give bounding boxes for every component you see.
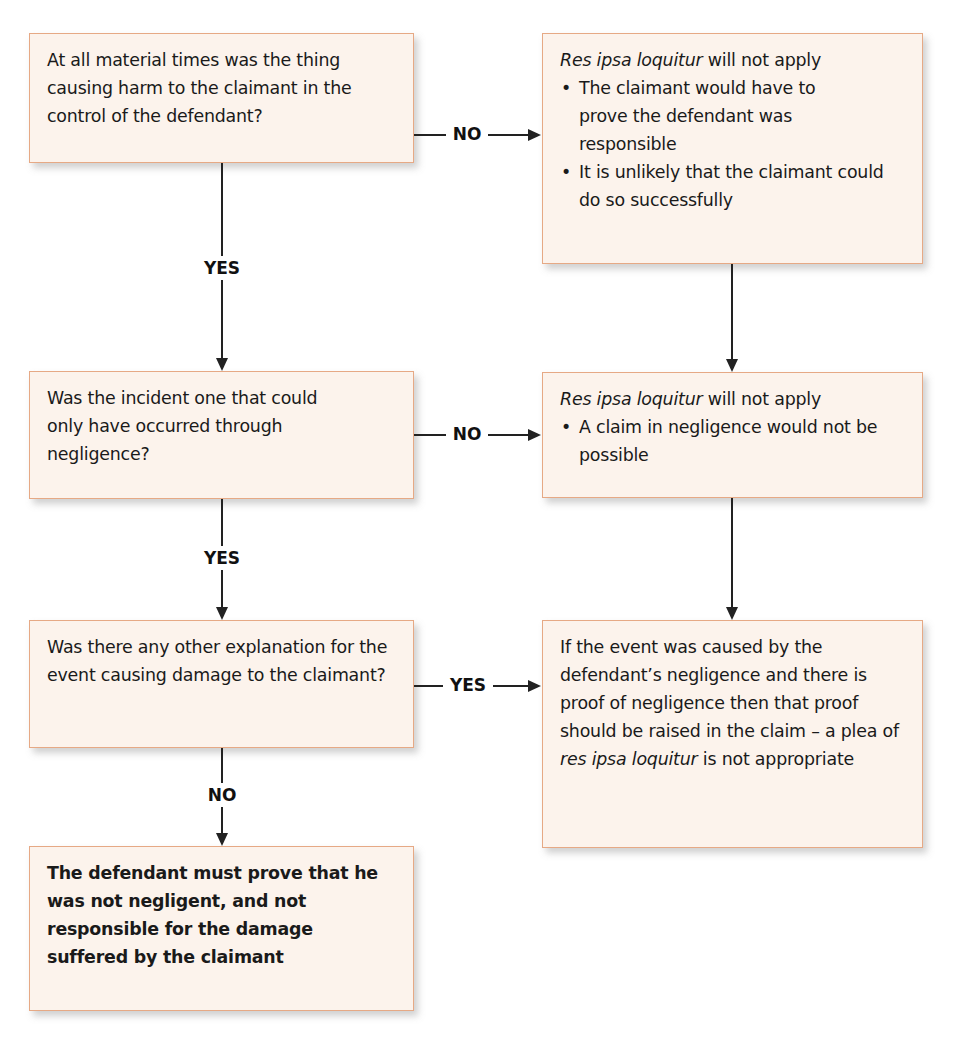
outcome-box-not-apply-prove: Res ipsa loquitur will not apply The cla…	[542, 33, 923, 264]
outcome-text-before: If the event was caused by the defendant…	[560, 637, 899, 741]
connector-o2-o3	[731, 498, 733, 608]
edge-label-yes: YES	[443, 675, 493, 695]
bullet-list: The claimant would have to prove the def…	[560, 74, 906, 214]
arrow-down-icon	[726, 359, 738, 372]
question-box-control: At all material times was the thing caus…	[29, 33, 414, 163]
question-box-negligence-only: Was the incident one that could only hav…	[29, 371, 414, 499]
outcome-text-after: is not appropriate	[698, 749, 855, 769]
final-outcome-box: The defendant must prove that he was not…	[29, 846, 414, 1011]
arrow-down-icon	[216, 607, 228, 620]
bullet-item: It is unlikely that the claimant could d…	[560, 158, 906, 214]
outcome-text: If the event was caused by the defendant…	[560, 633, 906, 773]
bullet-item: A claim in negligence would not be possi…	[560, 413, 906, 469]
final-outcome-text: The defendant must prove that he was not…	[47, 859, 397, 971]
edge-label-no: NO	[446, 124, 488, 144]
outcome-box-not-apply-no-claim: Res ipsa loquitur will not apply A claim…	[542, 372, 923, 498]
arrow-down-icon	[216, 358, 228, 371]
question-text: At all material times was the thing caus…	[47, 46, 397, 130]
edge-label-no: NO	[201, 783, 243, 807]
question-text: Was there any other explanation for the …	[47, 633, 397, 689]
heading-rest: will not apply	[702, 389, 821, 409]
heading-rest: will not apply	[702, 50, 821, 70]
edge-label-yes: YES	[199, 256, 245, 280]
arrow-down-icon	[726, 607, 738, 620]
arrow-right-icon	[528, 129, 541, 141]
edge-label-yes: YES	[199, 546, 245, 570]
arrow-down-icon	[216, 833, 228, 846]
outcome-box-raise-proof: If the event was caused by the defendant…	[542, 620, 923, 848]
bullet-list: A claim in negligence would not be possi…	[560, 413, 906, 469]
latin-term: res ipsa loquitur	[560, 749, 698, 769]
question-box-other-explanation: Was there any other explanation for the …	[29, 620, 414, 748]
latin-term: Res ipsa loquitur	[560, 50, 702, 70]
arrow-right-icon	[528, 429, 541, 441]
arrow-right-icon	[528, 680, 541, 692]
edge-label-no: NO	[446, 424, 488, 444]
outcome-heading: Res ipsa loquitur will not apply	[560, 385, 906, 413]
latin-term: Res ipsa loquitur	[560, 389, 702, 409]
connector-o1-o2	[731, 264, 733, 360]
outcome-heading: Res ipsa loquitur will not apply	[560, 46, 906, 74]
bullet-item: The claimant would have to prove the def…	[560, 74, 906, 158]
question-text: Was the incident one that could only hav…	[47, 384, 397, 468]
